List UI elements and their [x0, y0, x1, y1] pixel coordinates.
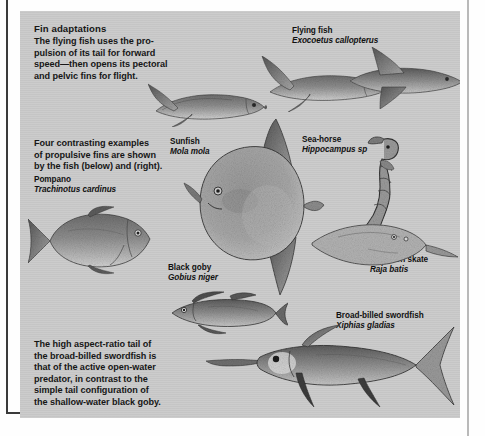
intro-line-1: The flying fish uses the pro-	[34, 36, 249, 48]
pompano-icon	[28, 201, 168, 279]
closing-note-line-5: simple tail configuration of	[34, 385, 224, 397]
figure-swordfish	[206, 323, 456, 418]
right-margin-rule	[467, 0, 469, 436]
intro-text-block: Fin adaptations The flying fish uses the…	[34, 23, 249, 82]
flying-fish-icon	[346, 47, 460, 109]
intro-line-3: speed—then opens its pectoral	[34, 59, 249, 71]
label-flying-fish: Flying fish Exocoetus callopterus	[292, 26, 378, 45]
page-title: Fin adaptations	[34, 23, 249, 34]
label-pompano-scientific: Trachinotus cardinus	[34, 185, 116, 195]
label-swordfish-common: Broad-billed swordfish	[336, 311, 424, 321]
closing-note-line-6: the shallow-water black goby.	[34, 397, 224, 409]
illustration-plate: Fin adaptations The flying fish uses the…	[20, 11, 460, 418]
label-flying-fish-common: Flying fish	[292, 26, 378, 36]
figure-skate	[308, 213, 458, 281]
label-pompano-common: Pompano	[34, 175, 116, 185]
figure-pompano	[28, 201, 168, 279]
sunfish-icon	[168, 119, 328, 299]
closing-note-line-3: that of the active open-water	[34, 362, 224, 374]
skate-icon	[308, 213, 458, 281]
closing-note-block: The high aspect-ratio tail of the broad-…	[34, 339, 224, 409]
figure-flying-fish-3	[346, 47, 460, 109]
left-margin-rule-foot	[6, 412, 20, 414]
label-flying-fish-scientific: Exocoetus callopterus	[292, 36, 378, 46]
intro-line-2: pulsion of its tail for forward	[34, 48, 249, 60]
closing-note-line-2: the broad-billed swordfish is	[34, 351, 224, 363]
label-pompano: Pompano Trachinotus cardinus	[34, 175, 116, 194]
closing-note-line-4: predator, in contrast to the	[34, 374, 224, 386]
swordfish-icon	[206, 323, 456, 418]
figure-page: Fin adaptations The flying fish uses the…	[0, 0, 485, 436]
figure-sunfish	[168, 119, 328, 299]
left-margin-rule	[6, 0, 8, 414]
